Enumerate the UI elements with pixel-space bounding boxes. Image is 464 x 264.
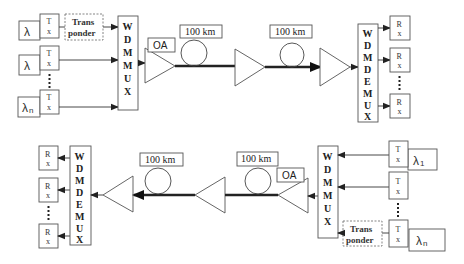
tx-label-top: T bbox=[396, 145, 401, 154]
amplifier-triangle-icon bbox=[278, 178, 308, 213]
ellipsis-dots-icon bbox=[397, 203, 399, 217]
amplifier-triangle-icon bbox=[195, 177, 225, 213]
bottom-link: R x R x R x W D M D E M U X bbox=[39, 141, 445, 251]
amplifier-triangle-icon bbox=[103, 176, 133, 212]
demux-letter: D bbox=[364, 40, 371, 51]
span-label: 100 km bbox=[145, 154, 176, 165]
rx-label-top: R bbox=[45, 150, 51, 159]
mux-letter: W bbox=[323, 151, 333, 162]
mux-letter: M bbox=[123, 47, 133, 58]
tx-label-top: T bbox=[396, 225, 401, 234]
top-wdm-demux: W D M D E M U X bbox=[358, 24, 378, 122]
rx-label-top: R bbox=[45, 228, 51, 237]
lambda-label: λ bbox=[416, 234, 422, 248]
amplifier-triangle-icon bbox=[320, 48, 350, 86]
demux-letter: E bbox=[76, 199, 83, 210]
demux-letter: M bbox=[363, 52, 373, 63]
transponder-line1: Trans bbox=[350, 224, 373, 234]
top-link: λ T x Trans ponder λ T x bbox=[18, 14, 410, 122]
demux-letter: X bbox=[76, 234, 84, 245]
demux-letter: U bbox=[364, 100, 371, 111]
tx-label-top: T bbox=[47, 93, 52, 102]
demux-letter: D bbox=[364, 64, 371, 75]
demux-letter: M bbox=[75, 175, 85, 186]
rx-label-bottom: x bbox=[398, 107, 402, 116]
amplifier-triangle-icon bbox=[145, 48, 175, 83]
rx-label-bottom: x bbox=[46, 191, 50, 200]
transponder-line2: ponder bbox=[68, 28, 96, 38]
mux-letter: M bbox=[123, 60, 133, 71]
amplifier-triangle-icon bbox=[235, 49, 265, 86]
mux-letter: D bbox=[124, 34, 131, 45]
tx-label-bottom: x bbox=[396, 235, 400, 244]
wdm-link-diagram: λ T x Trans ponder λ T x bbox=[0, 0, 464, 264]
rx-label-top: R bbox=[397, 98, 403, 107]
top-wdm-mux: W D M M U X bbox=[118, 16, 138, 110]
tx-label-top: T bbox=[47, 49, 52, 58]
rx-label-top: R bbox=[45, 182, 51, 191]
ellipsis-dots-icon bbox=[49, 74, 51, 88]
span-label: 100 km bbox=[275, 26, 306, 37]
mux-letter: M bbox=[323, 190, 333, 201]
rx-label-top: R bbox=[397, 20, 403, 29]
demux-letter: X bbox=[364, 111, 372, 122]
fiber-coil-icon bbox=[245, 168, 271, 194]
bottom-source-2: T x bbox=[338, 172, 408, 199]
ellipsis-dots-icon bbox=[399, 76, 401, 90]
demux-letter: W bbox=[75, 151, 85, 162]
oa-label: OA bbox=[282, 170, 297, 181]
lambda-label: λ bbox=[24, 59, 30, 73]
mux-letter: U bbox=[324, 203, 331, 214]
demux-letter: M bbox=[75, 211, 85, 222]
tx-label-bottom: x bbox=[47, 27, 51, 36]
oa-label: OA bbox=[153, 40, 168, 51]
transponder-line2: ponder bbox=[346, 235, 374, 245]
bottom-wdm-mux: W D M M U X bbox=[318, 146, 338, 238]
demux-letter: U bbox=[76, 223, 83, 234]
bottom-source-n: λ n T x Trans ponder bbox=[338, 220, 445, 251]
lambda-subscript: n bbox=[423, 239, 427, 248]
demux-letter: E bbox=[364, 76, 371, 87]
tx-label-top: T bbox=[396, 177, 401, 186]
mux-letter: X bbox=[124, 86, 132, 97]
mux-letter: X bbox=[324, 216, 332, 227]
bottom-source-1: λ 1 T x bbox=[338, 141, 437, 170]
rx-label-top: R bbox=[397, 52, 403, 61]
tx-label-bottom: x bbox=[396, 155, 400, 164]
top-source-n: λ n T x bbox=[18, 90, 118, 117]
lambda-subscript: 1 bbox=[420, 159, 425, 168]
lambda-label: λ bbox=[22, 101, 28, 115]
tx-label-bottom: x bbox=[396, 187, 400, 196]
fiber-coil-icon bbox=[280, 43, 304, 67]
top-source-2: λ T x bbox=[19, 46, 118, 75]
rx-label-bottom: x bbox=[46, 237, 50, 246]
span-label: 100 km bbox=[185, 26, 216, 37]
transponder-line1: Trans bbox=[72, 17, 95, 27]
lambda-label: λ bbox=[413, 154, 419, 168]
mux-letter: U bbox=[124, 73, 131, 84]
demux-letter: M bbox=[363, 88, 373, 99]
fiber-coil-icon bbox=[181, 40, 207, 66]
rx-label-bottom: x bbox=[46, 159, 50, 168]
demux-letter: W bbox=[363, 28, 373, 39]
lambda-subscript: n bbox=[29, 106, 33, 115]
fiber-coil-icon bbox=[145, 168, 171, 194]
demux-letter: D bbox=[76, 187, 83, 198]
demux-letter: D bbox=[76, 163, 83, 174]
tx-label-bottom: x bbox=[47, 59, 51, 68]
mux-letter: W bbox=[123, 21, 133, 32]
mux-letter: D bbox=[324, 164, 331, 175]
rx-label-bottom: x bbox=[398, 29, 402, 38]
ellipsis-dots-icon bbox=[48, 206, 50, 220]
mux-letter: M bbox=[323, 177, 333, 188]
tx-label-bottom: x bbox=[47, 103, 51, 112]
tx-label-top: T bbox=[47, 17, 52, 26]
lambda-label: λ bbox=[24, 25, 30, 39]
rx-label-bottom: x bbox=[398, 61, 402, 70]
span-label: 100 km bbox=[241, 153, 272, 164]
top-source-1: λ T x Trans ponder bbox=[19, 14, 118, 40]
bottom-wdm-demux: W D M D E M U X bbox=[70, 146, 91, 245]
